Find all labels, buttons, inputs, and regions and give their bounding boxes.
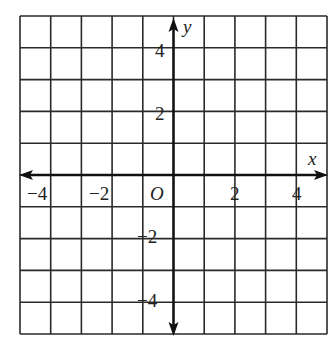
x-tick-label: −4 bbox=[27, 183, 48, 204]
origin-label: O bbox=[150, 183, 164, 204]
x-axis-label: x bbox=[307, 148, 317, 169]
y-tick-label: 4 bbox=[155, 40, 165, 61]
y-tick-label: −2 bbox=[137, 226, 157, 247]
x-tick-label: −2 bbox=[89, 183, 109, 204]
axes bbox=[19, 18, 328, 336]
y-tick-label: 2 bbox=[155, 103, 165, 124]
y-axis-label: y bbox=[181, 16, 192, 37]
y-tick-label: −4 bbox=[137, 290, 158, 311]
x-tick-label: 4 bbox=[292, 183, 302, 204]
coordinate-plane: x y O −4 −2 2 4 4 2 −2 −4 bbox=[0, 0, 336, 346]
x-tick-label: 2 bbox=[230, 183, 240, 204]
axis-labels: x y O −4 −2 2 4 4 2 −2 −4 bbox=[27, 16, 317, 311]
